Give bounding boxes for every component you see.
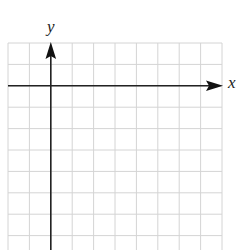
y-axis [46, 42, 57, 250]
y-axis-label: y [47, 18, 55, 35]
x-axis-label: x [228, 74, 236, 91]
grid-lines [8, 43, 222, 250]
grid-svg [0, 0, 243, 250]
coordinate-grid-figure: y x [0, 0, 243, 250]
